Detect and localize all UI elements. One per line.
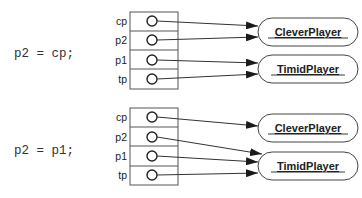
- var-label-cp: cp: [116, 15, 127, 27]
- reference-circle-icon: [147, 112, 157, 122]
- object-label: CleverPlayer: [275, 122, 342, 134]
- var-label-p2: p2: [115, 131, 127, 143]
- object-timid-player-1: TimidPlayer: [258, 55, 358, 83]
- var-label-p2: p2: [115, 34, 127, 46]
- object-label: CleverPlayer: [275, 26, 342, 38]
- object-label: TimidPlayer: [277, 63, 340, 75]
- panel-2: p2 = p1; cp p2 p1 tp CleverPlayer: [14, 108, 358, 185]
- object-clever-player-2: CleverPlayer: [258, 114, 358, 142]
- var-label-tp: tp: [118, 73, 127, 85]
- reference-circle-icon: [147, 151, 157, 161]
- var-label-cp: cp: [116, 111, 127, 123]
- var-label-p1: p1: [115, 54, 127, 66]
- panel-1: p2 = cp; cp p2 p1 tp CleverPlayer: [14, 12, 358, 89]
- object-label: TimidPlayer: [277, 160, 340, 172]
- var-label-p1: p1: [115, 150, 127, 162]
- reference-circle-icon: [147, 35, 157, 45]
- reference-circle-icon: [147, 16, 157, 26]
- reference-circle-icon: [147, 55, 157, 65]
- object-clever-player-1: CleverPlayer: [258, 18, 358, 46]
- reference-circle-icon: [147, 170, 157, 180]
- var-label-tp: tp: [118, 169, 127, 181]
- reference-diagram: p2 = cp; cp p2 p1 tp CleverPlayer: [0, 0, 362, 198]
- variable-table-2: cp p2 p1 tp: [115, 108, 178, 185]
- variable-table-1: cp p2 p1 tp: [115, 12, 178, 89]
- reference-circle-icon: [147, 74, 157, 84]
- object-timid-player-2: TimidPlayer: [258, 152, 358, 180]
- statement-2: p2 = p1;: [14, 144, 74, 158]
- reference-circle-icon: [147, 132, 157, 142]
- statement-1: p2 = cp;: [14, 47, 74, 61]
